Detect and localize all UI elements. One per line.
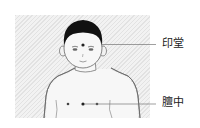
yintang-label: 印堂 — [162, 38, 184, 50]
yintang-point-dot — [81, 43, 84, 46]
left-nipple-dot — [67, 103, 70, 106]
danzhong-label: 膻中 — [162, 97, 184, 109]
right-eye — [89, 48, 94, 50]
torso-fill — [46, 69, 138, 118]
left-eye — [73, 48, 78, 50]
